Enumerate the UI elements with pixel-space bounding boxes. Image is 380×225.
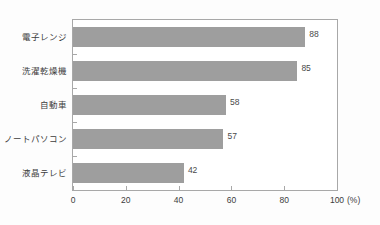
bar (73, 61, 297, 81)
category-label: 洗濯乾燥機 (0, 66, 67, 76)
bar (73, 129, 223, 149)
bar-value-label: 58 (230, 97, 239, 107)
axis-tick-label: 80 (279, 195, 288, 205)
category-label: 電子レンジ (0, 32, 67, 42)
axis-tick (179, 186, 180, 190)
bar-value-label: 42 (188, 165, 197, 175)
axis-minor-tick (73, 88, 77, 89)
axis-tick (337, 186, 338, 190)
bar (73, 27, 305, 47)
axis-tick (231, 186, 232, 190)
axis-tick-label: 20 (121, 195, 130, 205)
axis-minor-tick (73, 54, 77, 55)
category-label: 液晶テレビ (0, 168, 67, 178)
bar-row: 85 (73, 54, 337, 88)
bar-row: 88 (73, 20, 337, 54)
category-label: ノートパソコン (0, 134, 67, 144)
bar (73, 163, 184, 183)
axis-tick (73, 186, 74, 190)
axis-unit-label: (%) (347, 195, 360, 205)
axis-tick-label: 40 (174, 195, 183, 205)
axis-tick-label: 0 (71, 195, 76, 205)
bar-value-label: 57 (227, 131, 236, 141)
axis-tick-label: 60 (227, 195, 236, 205)
plot-area: 8885585742 (72, 19, 338, 191)
bar-row: 42 (73, 156, 337, 190)
axis-tick-label: 100 (330, 195, 344, 205)
bar-value-label: 88 (309, 29, 318, 39)
axis-minor-tick (73, 122, 77, 123)
axis-minor-tick (73, 156, 77, 157)
bar-row: 58 (73, 88, 337, 122)
bar-row: 57 (73, 122, 337, 156)
category-label: 自動車 (0, 100, 67, 110)
bar-value-label: 85 (301, 63, 310, 73)
bar-chart: 8885585742 電子レンジ洗濯乾燥機自動車ノートパソコン液晶テレビ0204… (0, 0, 380, 225)
axis-tick (284, 186, 285, 190)
axis-tick (126, 186, 127, 190)
bar (73, 95, 226, 115)
